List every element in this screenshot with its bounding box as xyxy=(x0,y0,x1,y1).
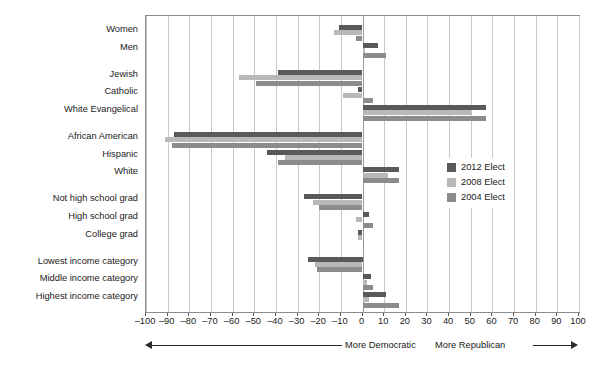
legend-swatch-icon xyxy=(447,178,456,187)
bar xyxy=(363,167,400,172)
bar xyxy=(358,230,362,235)
category-label: Hispanic xyxy=(102,149,138,159)
bar xyxy=(319,205,362,210)
bar xyxy=(334,30,362,35)
bar xyxy=(363,212,369,217)
legend-label: 2012 Elect xyxy=(461,162,505,173)
bar xyxy=(363,98,374,103)
more-democratic-label: More Democratic xyxy=(345,338,416,352)
gridline xyxy=(536,16,537,312)
legend-swatch-icon xyxy=(447,193,456,202)
category-label: High school grad xyxy=(68,211,138,221)
x-tick-label: 0 xyxy=(359,316,364,327)
x-tick-label: –90 xyxy=(159,316,175,327)
gridline xyxy=(189,16,190,312)
election-gap-bar-chart: WomenMenJewishCatholicWhite EvangelicalA… xyxy=(0,0,605,372)
category-label: Not high school grad xyxy=(53,193,138,203)
x-tick-label: 40 xyxy=(443,316,453,327)
gridline xyxy=(406,16,407,312)
zero-line xyxy=(363,16,364,312)
bar xyxy=(343,93,362,98)
legend-item: 2012 Elect xyxy=(447,160,505,175)
bar xyxy=(363,43,378,48)
legend-item: 2004 Elect xyxy=(447,190,505,205)
more-republican-label: More Republican xyxy=(435,338,505,352)
bar xyxy=(315,262,363,267)
gridline xyxy=(211,16,212,312)
x-tick-label: 10 xyxy=(378,316,388,327)
left-arrowhead-icon xyxy=(145,341,152,349)
x-tick-label: 60 xyxy=(486,316,496,327)
x-tick-label: 90 xyxy=(551,316,561,327)
bar xyxy=(308,257,362,262)
x-tick-label: –80 xyxy=(181,316,197,327)
x-tick-label: 30 xyxy=(421,316,431,327)
x-tick-label: –20 xyxy=(310,316,326,327)
x-tick-label: –30 xyxy=(289,316,305,327)
gridline xyxy=(384,16,385,312)
bar xyxy=(285,155,363,160)
bar xyxy=(317,267,362,272)
category-label: Catholic xyxy=(104,86,138,96)
bar xyxy=(363,274,372,279)
gridline xyxy=(146,16,147,312)
category-label: White xyxy=(114,166,138,176)
bar xyxy=(267,150,362,155)
category-label: Jewish xyxy=(110,69,138,79)
x-tick-label: –70 xyxy=(202,316,218,327)
bar xyxy=(363,116,486,121)
gridline xyxy=(579,16,580,312)
bar xyxy=(356,36,362,41)
bar xyxy=(363,223,374,228)
category-label: Highest income category xyxy=(36,291,138,301)
legend-item: 2008 Elect xyxy=(447,175,505,190)
bar xyxy=(172,143,363,148)
right-arrowhead-icon xyxy=(571,341,578,349)
legend-label: 2008 Elect xyxy=(461,177,505,188)
category-label: African American xyxy=(68,131,138,141)
gridline xyxy=(427,16,428,312)
x-axis: –100–90–80–70–60–50–40–30–20–10010203040… xyxy=(145,313,578,327)
gridline xyxy=(168,16,169,312)
bar xyxy=(313,200,363,205)
category-label: Middle income category xyxy=(40,273,138,283)
bar xyxy=(363,280,367,285)
legend-swatch-icon xyxy=(447,163,456,172)
bar xyxy=(363,285,374,290)
category-label: Women xyxy=(106,24,138,34)
bar xyxy=(358,87,362,92)
category-labels: WomenMenJewishCatholicWhite EvangelicalA… xyxy=(0,0,142,372)
x-tick-label: 20 xyxy=(400,316,410,327)
bar xyxy=(356,217,362,222)
category-label: College grad xyxy=(85,229,138,239)
bar xyxy=(363,240,364,245)
bar xyxy=(304,194,362,199)
bar xyxy=(363,53,387,58)
chart-legend: 2012 Elect2008 Elect2004 Elect xyxy=(444,158,509,208)
x-tick-label: –60 xyxy=(224,316,240,327)
bar xyxy=(363,297,369,302)
bar xyxy=(358,235,362,240)
gridline xyxy=(276,16,277,312)
bar xyxy=(363,178,400,183)
left-direction-line xyxy=(152,345,342,346)
category-label: Men xyxy=(120,42,138,52)
bar xyxy=(174,132,362,137)
right-direction-line xyxy=(533,345,571,346)
bar xyxy=(165,137,362,142)
gridline xyxy=(557,16,558,312)
bar xyxy=(256,81,362,86)
bar xyxy=(278,70,362,75)
x-tick-label: –10 xyxy=(332,316,348,327)
x-tick-label: 50 xyxy=(465,316,475,327)
bar xyxy=(363,110,471,115)
category-label: White Evangelical xyxy=(64,104,138,114)
x-tick-label: 100 xyxy=(570,316,586,327)
x-tick-label: –100 xyxy=(135,316,156,327)
direction-annotation: More Democratic More Republican xyxy=(145,338,578,354)
bar xyxy=(363,292,387,297)
bar xyxy=(278,160,362,165)
gridline xyxy=(514,16,515,312)
x-tick-label: –40 xyxy=(267,316,283,327)
bar xyxy=(239,75,362,80)
